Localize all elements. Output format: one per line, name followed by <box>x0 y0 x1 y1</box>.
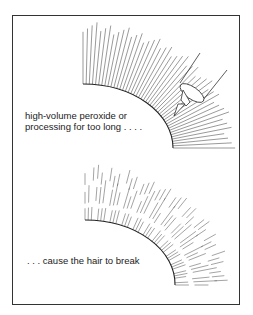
scalp-curve-bottom <box>85 220 175 285</box>
applicator-icon <box>174 53 227 116</box>
caption-bottom: . . . cause the hair to break <box>27 255 139 266</box>
hair-illustration <box>0 0 253 315</box>
caption-line: processing for too long . . . . <box>25 121 142 132</box>
caption-top: high-volume peroxide or processing for t… <box>25 110 142 132</box>
caption-line: . . . cause the hair to break <box>27 255 139 266</box>
broken-hair-strands <box>85 165 228 285</box>
caption-line: high-volume peroxide or <box>25 110 127 121</box>
